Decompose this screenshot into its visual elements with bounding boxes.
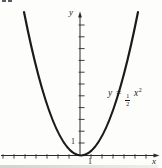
equation-fraction: 12: [125, 93, 130, 108]
fraction-numerator: 1: [125, 93, 130, 101]
equation-lhs: y: [108, 88, 112, 98]
fraction-denominator: 2: [126, 101, 129, 108]
curve-equation-label: y = 12 x2: [108, 87, 142, 107]
parabola-figure: y x 1 1 y = 12 x2: [0, 0, 162, 168]
y-axis-label: y: [69, 8, 73, 17]
equation-variable: x: [134, 88, 138, 98]
x-axis-ticks: [3, 154, 146, 158]
axes-and-curve-canvas: [0, 0, 162, 168]
y-tick-label-1: 1: [71, 138, 75, 146]
scan-artifact: [0, 165, 158, 168]
y-axis-arrowhead-icon: [78, 12, 82, 18]
cropped-text-fragment: [0, 0, 16, 3]
equation-equals-sign: =: [116, 88, 122, 98]
equation-exponent: 2: [139, 87, 142, 93]
